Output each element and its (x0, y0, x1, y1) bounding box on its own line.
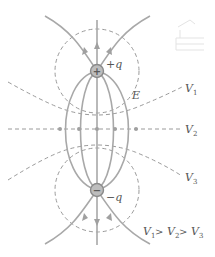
svg-text:>: > (155, 226, 163, 237)
svg-text:1: 1 (193, 89, 197, 97)
negative-charge-label: −q (106, 191, 122, 204)
negative-charge: − (91, 184, 104, 197)
dipole-diagram: + − +q −q E V 1 V 2 V 3 V 1 > V 2 > V 3 (0, 0, 215, 257)
label-v1: V 1 (185, 82, 197, 97)
positive-charge-label: +q (106, 58, 122, 71)
equipotential-v1 (8, 82, 182, 115)
label-v2: V 2 (185, 123, 197, 138)
equipotential-v3 (8, 145, 182, 180)
faded-watermark-icon (176, 20, 204, 50)
field-label-e: E (131, 89, 140, 102)
plus-sign-icon: + (93, 66, 101, 77)
positive-charge: + (91, 65, 104, 78)
field-lines-incoming (45, 190, 150, 245)
svg-text:3: 3 (199, 232, 203, 240)
svg-text:>: > (179, 226, 187, 237)
minus-sign-icon: − (93, 185, 101, 196)
svg-text:2: 2 (193, 130, 197, 138)
svg-text:3: 3 (193, 178, 197, 186)
label-v3: V 3 (185, 171, 197, 186)
potential-relation: V 1 > V 2 > V 3 (143, 225, 203, 240)
